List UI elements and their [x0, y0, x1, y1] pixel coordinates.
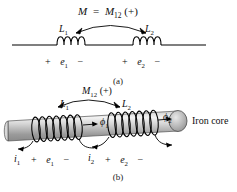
inductor-label-l2: L2 [145, 24, 154, 37]
inductor-label-l1-b: L1 [60, 99, 69, 112]
lead-wire-l1-out [79, 139, 94, 148]
coupling-arc [76, 26, 146, 34]
flux-label-phi1: ϕ1 [100, 117, 109, 130]
polarity-group-e2: + e2 − [122, 57, 160, 70]
lead-wire-i1-in [18, 141, 33, 149]
plus-sign-e1-b: + [31, 154, 37, 165]
mutual-inductance-label-b: M12 (+) [82, 86, 112, 99]
mutual-sign: (+) [124, 5, 138, 17]
mutual-m12-subscript: 12 [114, 11, 121, 20]
polarity-group-e1-b: + e1 − [31, 155, 69, 168]
inductor-label-l2-b: L2 [122, 99, 131, 112]
i1-subscript: 1 [17, 159, 20, 166]
mutual-sign-b: (+) [100, 85, 112, 96]
equals-sign: = [93, 5, 99, 17]
current-label-i1: i1 [14, 154, 20, 167]
current-arrowhead-i1 [18, 147, 24, 152]
polarity-group-e1: + e1 − [45, 57, 83, 70]
mutual-m-symbol: M [78, 5, 87, 17]
voltage-subscript-e2: 2 [142, 62, 145, 69]
inductor-label-l1: L1 [59, 24, 68, 37]
current-arrowhead-i2 [92, 145, 98, 150]
lead-wire-i2-in [92, 137, 109, 147]
voltage-subscript-e2-b: 2 [125, 160, 128, 167]
l1-subscript: 1 [65, 29, 68, 36]
inductor-symbol-l2 [133, 37, 161, 45]
mutual-inductance-label: M = M12 (+) [78, 6, 138, 20]
minus-sign-e2-b: − [138, 154, 144, 165]
caption-b: (b) [98, 172, 138, 182]
voltage-subscript-e1-b: 1 [51, 160, 54, 167]
voltage-subscript-e1: 1 [65, 62, 68, 69]
mutual-inductance-figure: M = M12 (+) L1 L2 + e1 − + e2 − (a) [0, 0, 237, 192]
minus-sign-e2: − [155, 56, 161, 67]
i2-subscript: 2 [91, 158, 94, 165]
l2-subscript-b: 2 [128, 104, 131, 111]
lead-wire-l2-out [155, 135, 172, 145]
plus-sign-e2-b: + [105, 154, 111, 165]
minus-sign-e1: − [78, 56, 84, 67]
plus-sign-e1: + [45, 56, 51, 67]
polarity-group-e2-b: + e2 − [105, 155, 143, 168]
coupling-arrowhead-right-b [114, 102, 120, 108]
phi1-subscript: 1 [105, 122, 108, 129]
flux-label-phi2: ϕ2 [163, 112, 172, 125]
minus-sign-e1-b: − [64, 154, 70, 165]
current-label-i2: i2 [88, 153, 94, 166]
l2-subscript: 2 [151, 29, 154, 36]
mutual-m12-symbol: M [105, 5, 114, 17]
terminal-arrowhead-right [166, 143, 172, 148]
mutual-m12-subscript-b: 12 [90, 91, 97, 98]
plus-sign-e2: + [122, 56, 128, 67]
iron-core-label: Iron core [192, 116, 228, 126]
l1-subscript-b: 1 [66, 104, 69, 111]
inductor-symbol-l1 [57, 37, 85, 45]
phi2-subscript: 2 [168, 117, 171, 124]
panel-b-physical: M12 (+) L1 L2 ϕ1 ϕ2 Iron core i1 i2 + e1 [0, 85, 237, 192]
coupling-arrowhead-left [76, 28, 82, 34]
panel-a-schematic: M = M12 (+) L1 L2 + e1 − + e2 − (a) [0, 0, 237, 96]
